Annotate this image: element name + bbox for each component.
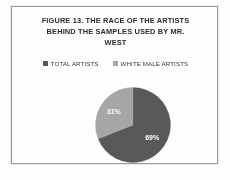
figure-container: FIGURE 13. THE RACE OF THE ARTISTS BEHIN… [0, 0, 230, 180]
legend-swatch-white-male-artists [113, 61, 118, 66]
pie-data-label-total-artists: 69% [145, 134, 160, 141]
chart-title-line-3: WEST [26, 37, 205, 48]
pie-data-label-white-male-artists: 31% [107, 108, 122, 115]
legend-item-total-artists[interactable]: TOTAL ARTISTS [43, 60, 99, 67]
chart-title-line-1: FIGURE 13. THE RACE OF THE ARTISTS [26, 15, 205, 26]
chart-title-line-2: BEHIND THE SAMPLES USED BY MR. [26, 26, 205, 37]
legend-label-total-artists: TOTAL ARTISTS [51, 60, 99, 67]
legend-label-white-male-artists: WHITE MALE ARTISTS [121, 60, 189, 67]
figure-frame: FIGURE 13. THE RACE OF THE ARTISTS BEHIN… [11, 6, 218, 164]
legend-swatch-total-artists [43, 61, 48, 66]
pie-chart: 69% 31% [95, 87, 171, 163]
pie-chart-svg: 69% 31% [95, 87, 171, 163]
chart-legend: TOTAL ARTISTS WHITE MALE ARTISTS [26, 60, 205, 67]
pie-slices [95, 88, 170, 163]
chart-title: FIGURE 13. THE RACE OF THE ARTISTS BEHIN… [26, 15, 205, 48]
legend-item-white-male-artists[interactable]: WHITE MALE ARTISTS [113, 60, 189, 67]
